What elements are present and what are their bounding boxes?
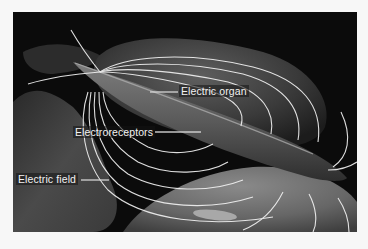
photo-illustration (13, 12, 357, 232)
electric-organ-label: Electric organ (179, 85, 249, 97)
electroreceptors-label: Electroreceptors (73, 126, 155, 138)
electric-field-label: Electric field (16, 173, 78, 185)
left-rock (13, 91, 117, 232)
fish-photo-figure: Electric organ Electroreceptors Electric… (13, 12, 357, 232)
